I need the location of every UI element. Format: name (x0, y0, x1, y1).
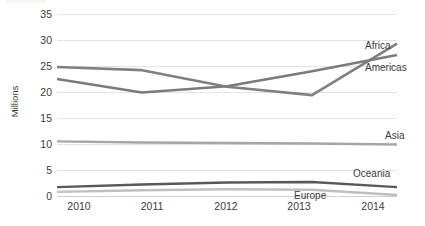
y-tick-label: 35 (26, 9, 52, 20)
plot-svg (57, 14, 397, 196)
series-label-oceania: Oceania (353, 168, 390, 179)
series-label-asia: Asia (385, 130, 404, 141)
y-tick-label: 20 (26, 87, 52, 98)
x-tick-label: 2012 (214, 200, 237, 212)
y-tick-label: 0 (26, 191, 52, 202)
line-chart: Millions 35 30 25 20 15 10 5 0 2010 2011… (0, 0, 425, 226)
x-tick-label: 2013 (287, 200, 310, 212)
plot-area (57, 14, 397, 196)
y-tick-label: 30 (26, 35, 52, 46)
series-label-africa: Africa (365, 40, 391, 51)
x-tick-label: 2014 (361, 200, 384, 212)
series-line-oceania (57, 182, 397, 187)
y-tick-label: 5 (26, 165, 52, 176)
y-tick-label: 15 (26, 113, 52, 124)
y-axis-tick-labels: 35 30 25 20 15 10 5 0 (14, 0, 52, 226)
series-line-europe (57, 189, 397, 195)
x-tick-label: 2011 (141, 200, 164, 212)
series-label-americas: Americas (365, 62, 407, 73)
gridlines (57, 14, 397, 196)
x-tick-label: 2010 (67, 200, 90, 212)
series-label-europe: Europe (294, 190, 326, 201)
y-tick-label: 10 (26, 139, 52, 150)
y-tick-label: 25 (26, 61, 52, 72)
